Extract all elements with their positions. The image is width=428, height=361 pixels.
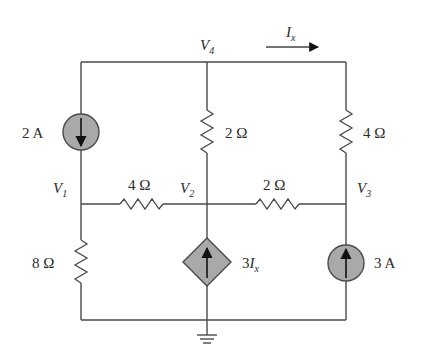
resistor-8ohm: [75, 240, 87, 283]
label-r-v1-v2: 4 Ω: [128, 177, 150, 193]
circuit-diagram: V4 Ix 2 A 4 Ω 2 Ω 4 Ω V1 4 Ω V2 2 Ω V3 8…: [0, 0, 428, 361]
resistor-4ohm-horizontal: [120, 199, 163, 209]
resistor-4ohm-vertical: [340, 110, 352, 153]
label-2a: 2 A: [22, 125, 43, 141]
ix-label: Ix: [285, 24, 296, 43]
label-r-v4-v2: 2 Ω: [225, 125, 247, 141]
resistor-2ohm-vertical: [201, 110, 213, 153]
node-label-v3: V3: [357, 180, 371, 199]
label-r-v2-v3: 2 Ω: [263, 177, 285, 193]
label-3a: 3 A: [374, 255, 395, 271]
resistor-2ohm-horizontal: [256, 199, 299, 209]
ground-icon: [197, 335, 217, 343]
label-r-v4-v3: 4 Ω: [363, 125, 385, 141]
node-label-v4: V4: [200, 37, 214, 56]
label-dependent-source: 3Ix: [242, 255, 260, 274]
node-label-v2: V2: [180, 180, 194, 199]
label-r-v1-gnd: 8 Ω: [32, 255, 54, 271]
node-label-v1: V1: [53, 180, 67, 199]
